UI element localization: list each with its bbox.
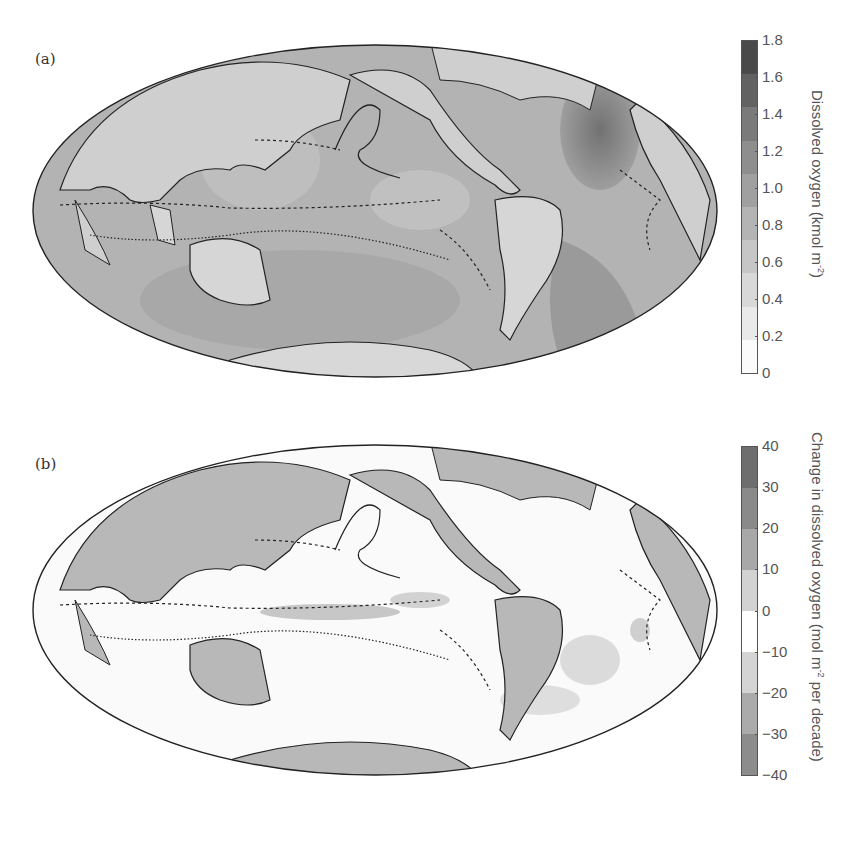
colorbar-tick-mark <box>755 611 758 612</box>
colorbar-tick-mark <box>755 569 758 570</box>
colorbar-tick-label: 20 <box>762 520 779 535</box>
colorbar-tick-label: 0.8 <box>762 217 783 232</box>
colorbar-tick-mark <box>755 734 758 735</box>
colorbar-tick-mark <box>755 775 758 776</box>
colorbar-tick-mark <box>755 188 758 189</box>
colorbar-tick-label: 1.4 <box>762 106 783 121</box>
colorbar-tick-label: −40 <box>762 767 787 782</box>
colorbar-b-title: Change in dissolved oxygen (mol m-2 per … <box>809 432 826 762</box>
colorbar-tick-label: 0.4 <box>762 291 783 306</box>
panel-b-map <box>0 400 735 800</box>
colorbar-tick-mark <box>755 652 758 653</box>
colorbar-tick-mark <box>755 151 758 152</box>
colorbar-a <box>741 40 758 374</box>
colorbar-tick-mark <box>755 299 758 300</box>
colorbar-tick-mark <box>755 446 758 447</box>
colorbar-tick-mark <box>755 487 758 488</box>
colorbar-tick-label: 0.2 <box>762 328 783 343</box>
colorbar-tick-mark <box>755 77 758 78</box>
colorbar-tick-mark <box>755 336 758 337</box>
colorbar-tick-label: −30 <box>762 726 787 741</box>
colorbar-tick-mark <box>755 225 758 226</box>
colorbar-tick-label: 0 <box>762 365 770 380</box>
colorbar-a-title: Dissolved oxygen (kmol m-2) <box>809 90 826 278</box>
colorbar-tick-mark <box>755 373 758 374</box>
colorbar-tick-label: 10 <box>762 561 779 576</box>
colorbar-tick-mark <box>755 693 758 694</box>
colorbar-tick-label: 0 <box>762 603 770 618</box>
colorbar-tick-label: 1.2 <box>762 143 783 158</box>
colorbar-tick-label: −20 <box>762 685 787 700</box>
colorbar-tick-label: 1.6 <box>762 69 783 84</box>
colorbar-tick-label: 1.8 <box>762 32 783 47</box>
colorbar-tick-mark <box>755 114 758 115</box>
colorbar-tick-label: −10 <box>762 644 787 659</box>
colorbar-tick-label: 40 <box>762 438 779 453</box>
colorbar-tick-label: 1.0 <box>762 180 783 195</box>
colorbar-tick-mark <box>755 262 758 263</box>
panel-a-map <box>0 0 735 400</box>
colorbar-tick-label: 0.6 <box>762 254 783 269</box>
colorbar-tick-label: 30 <box>762 479 779 494</box>
colorbar-tick-mark <box>755 40 758 41</box>
colorbar-tick-mark <box>755 528 758 529</box>
